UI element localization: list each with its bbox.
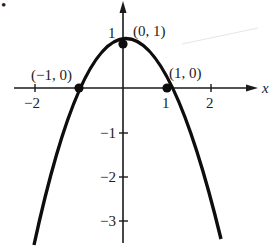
- y-tick-label-neg2: −2: [100, 169, 116, 185]
- parabola-graph: • x −2 1 2 1 −1 −2 −3 (−1, 0) (0, 1) (1,…: [0, 0, 272, 252]
- point-label-0-1: (0, 1): [133, 23, 166, 40]
- y-tick-label-neg1: −1: [100, 125, 116, 141]
- y-tick-label-neg3: −3: [100, 213, 116, 229]
- point-label-1-0: (1, 0): [169, 65, 202, 82]
- list-marker: •: [1, 0, 6, 13]
- point-0-1: [118, 39, 127, 48]
- point-1-0: [162, 83, 171, 92]
- x-tick-label-2: 2: [206, 95, 214, 111]
- x-axis-arrow-icon: [246, 85, 258, 92]
- x-tick-label-1: 1: [162, 95, 170, 111]
- y-axis-arrow-icon: [120, 1, 127, 13]
- x-axis-label: x: [261, 80, 269, 96]
- point-label-neg1-0: (−1, 0): [31, 67, 72, 84]
- x-tick-label-neg2: −2: [24, 95, 40, 111]
- y-tick-label-1: 1: [108, 25, 116, 41]
- scan-artifact: [182, 28, 258, 44]
- point-neg1-0: [74, 83, 83, 92]
